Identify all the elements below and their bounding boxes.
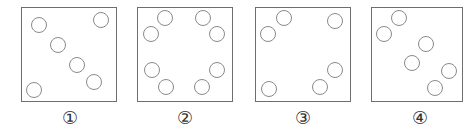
circle-icon [144,62,160,78]
circle-icon [327,62,343,78]
circle-icon [69,57,85,73]
circle-icon [391,10,407,26]
circle-icon [86,74,102,90]
circle-icon [312,79,328,95]
circle-icon [427,80,443,96]
circle-icon [327,13,343,29]
circle-icon [276,10,292,26]
circle-icon [209,26,225,42]
circle-icon [93,12,109,28]
circle-icon [418,36,434,52]
circle-icon [261,81,277,97]
option-label-4: ④ [405,108,435,128]
circle-icon [441,63,457,79]
option-label-1: ① [55,108,85,128]
circle-icon [376,26,392,42]
circle-icon [26,82,42,98]
circle-icon [143,26,159,42]
option-panel-4 [371,7,463,102]
circle-icon [31,17,47,33]
option-label-3: ③ [288,108,318,128]
option-label-2: ② [170,108,200,128]
circle-icon [195,10,211,26]
circle-icon [50,37,66,53]
option-panel-2 [137,7,233,102]
circle-icon [209,62,225,78]
circle-icon [260,26,276,42]
circle-icon [158,79,174,95]
circle-icon [404,55,420,71]
circle-icon [157,10,173,26]
circle-icon [194,79,210,95]
